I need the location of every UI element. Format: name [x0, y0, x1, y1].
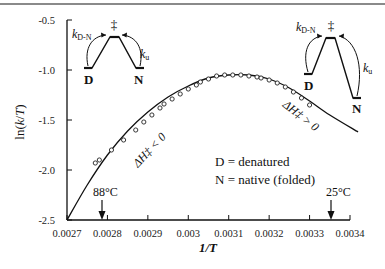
rate-ku-label: ku: [140, 47, 149, 62]
y-tick-label: -1.0: [38, 65, 55, 76]
temp-25c-label: 25°C: [326, 185, 351, 199]
state-d-label: D: [304, 78, 313, 93]
data-point: [194, 83, 198, 87]
data-point: [150, 113, 154, 117]
x-tick-label: 0.0027: [53, 228, 82, 239]
annotation-dh-positive: ΔH‡ > 0: [279, 97, 321, 134]
y-tick-label: -2.0: [38, 165, 55, 176]
data-point: [231, 73, 235, 77]
state-n-label: N: [352, 101, 362, 116]
data-point: [267, 78, 271, 82]
data-point: [134, 128, 138, 132]
data-point: [299, 96, 303, 100]
x-tick-label: 0.0032: [255, 228, 284, 239]
data-point: [109, 148, 113, 152]
data-point: [206, 77, 210, 81]
inset-energy-diagram-left: ‡ D N kD-N ku: [72, 17, 149, 87]
data-point: [223, 73, 227, 77]
rate-kdn-label: kD-N: [296, 20, 316, 35]
inset-energy-diagram-right: ‡ D N kD-N ku: [296, 18, 372, 116]
arrow-down-icon: [328, 200, 335, 220]
x-tick-label: 0.0029: [133, 228, 162, 239]
annotation-dh-negative: ΔH‡ < 0: [129, 130, 168, 171]
data-point: [186, 87, 190, 91]
data-point: [170, 97, 174, 101]
x-tick-label: 0.0034: [336, 228, 366, 239]
legend-native: N = native (folded): [215, 172, 315, 187]
x-tick-label: 0.0031: [214, 228, 243, 239]
data-point: [259, 76, 263, 80]
temp-88c-label: 88°C: [93, 185, 118, 199]
rate-kdn-label: kD-N: [72, 27, 92, 42]
data-point: [97, 158, 101, 162]
arrow-down-icon: [99, 200, 106, 220]
data-point: [158, 106, 162, 110]
state-n-label: N: [134, 72, 144, 87]
data-point: [239, 73, 243, 77]
data-point: [291, 90, 295, 94]
x-axis-title: 1/T: [199, 240, 218, 255]
chart: -0.5-1.0-1.5-2.0-2.50.00270.00280.00290.…: [0, 0, 385, 269]
data-point: [93, 161, 97, 165]
legend-denatured: D = denatured: [215, 154, 290, 169]
data-point: [307, 103, 311, 107]
data-point: [178, 92, 182, 96]
x-tick-label: 0.003: [176, 228, 200, 239]
data-point: [275, 81, 279, 85]
data-point: [255, 75, 259, 79]
y-tick-label: -0.5: [38, 15, 55, 26]
data-point: [283, 85, 287, 89]
data-points: [93, 73, 311, 165]
data-point: [214, 74, 218, 78]
transition-state-label: ‡: [328, 18, 335, 33]
transition-state-label: ‡: [111, 17, 118, 32]
data-point: [162, 102, 166, 106]
data-point: [198, 80, 202, 84]
data-point: [247, 74, 251, 78]
x-tick-label: 0.0033: [295, 228, 324, 239]
data-point: [142, 120, 146, 124]
y-axis-title: ln(k/T): [12, 104, 27, 139]
state-d-label: D: [84, 72, 93, 87]
rate-ku-label: ku: [363, 61, 372, 76]
y-tick-label: -1.5: [38, 115, 55, 126]
data-point: [122, 138, 126, 142]
y-tick-label: -2.5: [38, 215, 55, 226]
x-tick-label: 0.0028: [93, 228, 122, 239]
